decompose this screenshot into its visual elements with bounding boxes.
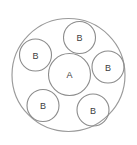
label-satellite-bottom-right: B (90, 106, 96, 116)
label-satellite-bottom-left: B (40, 101, 46, 111)
label-center-a: A (66, 70, 72, 80)
circle-packing-diagram: ABBBBB (0, 0, 137, 145)
label-satellite-left: B (32, 51, 38, 61)
label-satellite-top: B (76, 33, 82, 43)
label-satellite-right: B (105, 63, 111, 73)
diagram-canvas: ABBBBB (0, 0, 137, 145)
